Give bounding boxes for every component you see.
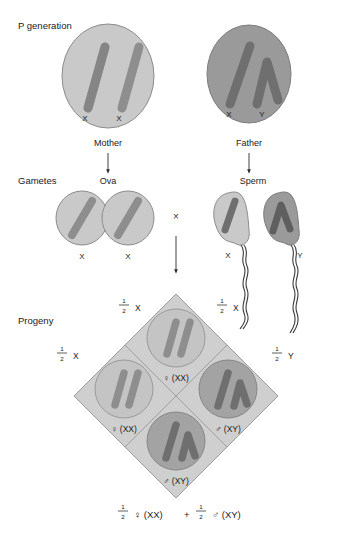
punnett-top-left-fraction: 1 2 X [119, 297, 141, 314]
gametes-label: Gametes [18, 175, 57, 186]
sperm-label: Sperm [240, 176, 267, 186]
punnett-square: ♀ (XX) ♀ (XX) ♂ (XY) ♂ (XY) [74, 294, 278, 498]
frac-left-numerator: 1 [60, 345, 64, 352]
summary-second-numerator: 1 [199, 503, 203, 510]
frac-top-right-allele: X [233, 303, 239, 313]
summary-first-numerator: 1 [121, 503, 125, 510]
frac-left-denominator: 2 [60, 355, 64, 362]
summary-second-denominator: 2 [199, 513, 203, 520]
diagram-canvas: P generation X X Mother X [0, 0, 348, 534]
cross-symbol: × [173, 211, 179, 222]
sperm-x-label: X [225, 251, 231, 260]
summary-second-term: ♂ (XY) [212, 509, 241, 520]
frac-left-allele: X [73, 351, 79, 361]
sex-determination-diagram: P generation X X Mother X [0, 0, 348, 534]
father-role-label: Father [236, 138, 262, 148]
frac-top-right-denominator: 2 [220, 307, 224, 314]
frac-right-allele: Y [288, 351, 294, 361]
summary-formula: 1 2 ♀ (XX) + 1 2 ♂ (XY) [118, 503, 241, 520]
summary-first-term: ♀ (XX) [134, 509, 163, 520]
progeny-label: Progeny [18, 315, 54, 326]
mother-cell: X X [62, 24, 154, 128]
sperm-y: Y [264, 192, 304, 333]
ovum-1: X [56, 191, 108, 261]
ovum-2-label: X [125, 252, 131, 261]
mother-chromosome-2-label: X [116, 114, 122, 123]
progeny-bottom-genotype: ♂ (XY) [163, 476, 189, 486]
progeny-top-genotype: ♀ (XX) [163, 373, 189, 383]
mother-role-label: Mother [94, 138, 122, 148]
father-chromosome-x-label: X [226, 110, 232, 119]
frac-right-denominator: 2 [275, 355, 279, 362]
father-chromosome-y-label: Y [259, 110, 265, 119]
sperm-x: X [214, 192, 250, 329]
mother-chromosome-1-label: X [82, 114, 88, 123]
progeny-right-genotype: ♂ (XY) [215, 424, 241, 434]
punnett-right-fraction: 1 2 Y [272, 345, 294, 362]
frac-top-left-denominator: 2 [122, 307, 126, 314]
frac-top-left-numerator: 1 [122, 297, 126, 304]
ovum-1-label: X [79, 252, 85, 261]
summary-first-denominator: 2 [121, 513, 125, 520]
p-generation-label: P generation [18, 20, 72, 31]
progeny-left-genotype: ♀ (XX) [111, 424, 137, 434]
ova-label: Ova [100, 176, 117, 186]
punnett-top-right-fraction: 1 2 X [217, 297, 239, 314]
frac-top-right-numerator: 1 [220, 297, 224, 304]
punnett-left-fraction: 1 2 X [57, 345, 79, 362]
frac-top-left-allele: X [135, 303, 141, 313]
father-cell: X Y [207, 25, 291, 123]
frac-right-numerator: 1 [275, 345, 279, 352]
sperm-y-label: Y [297, 251, 303, 260]
ovum-2: X [102, 191, 154, 261]
summary-operator: + [184, 509, 190, 520]
